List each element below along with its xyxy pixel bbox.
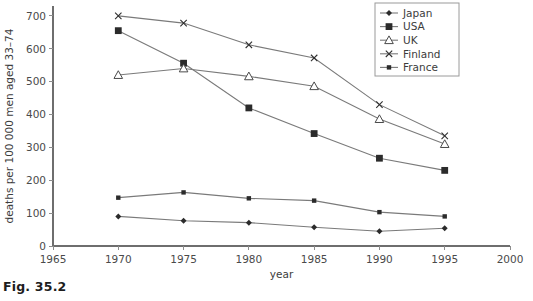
y-tick-label: 500: [26, 75, 46, 87]
y-tick-label: 600: [26, 43, 46, 55]
y-axis-ticks: 0100200300400500600700: [26, 10, 53, 252]
x-tick-label: 1965: [40, 253, 67, 265]
data-point-japan-1980: [246, 220, 252, 226]
legend-label-uk: UK: [403, 34, 419, 46]
data-point-usa-1980: [245, 105, 252, 112]
x-tick-label: 2000: [497, 253, 524, 265]
data-point-france-1985: [312, 198, 316, 202]
figure-container: 0100200300400500600700196519701975198019…: [0, 0, 533, 301]
legend-label-france: France: [403, 61, 438, 73]
series-uk: [114, 64, 449, 147]
legend-marker-france: [387, 65, 391, 69]
x-tick-label: 1980: [235, 253, 262, 265]
x-tick-label: 1975: [170, 253, 197, 265]
y-tick-label: 300: [26, 141, 46, 153]
chart-legend: JapanUSAUKFinlandFrance: [375, 3, 459, 76]
series-japan: [115, 213, 447, 234]
data-point-finland-1990: [376, 101, 382, 107]
legend-label-finland: Finland: [403, 48, 441, 60]
y-tick-label: 700: [26, 10, 46, 22]
line-chart: 0100200300400500600700196519701975198019…: [0, 0, 533, 301]
series-france: [116, 190, 447, 218]
data-point-japan-1990: [376, 228, 382, 234]
x-axis-ticks: 19651970197519801985199019952000: [40, 246, 524, 265]
legend-label-japan: Japan: [402, 7, 432, 19]
data-point-usa-1970: [115, 27, 122, 34]
data-point-usa-1990: [376, 155, 383, 162]
legend-label-usa: USA: [403, 20, 426, 32]
series-line-france: [118, 192, 444, 216]
x-tick-label: 1990: [366, 253, 393, 265]
figure-caption: Fig. 35.2: [3, 279, 67, 294]
x-tick-label: 1970: [105, 253, 132, 265]
data-point-japan-1995: [442, 225, 448, 231]
data-point-finland-1995: [442, 133, 448, 139]
data-point-france-1990: [377, 210, 381, 214]
data-point-france-1980: [247, 196, 251, 200]
legend-marker-usa: [386, 23, 393, 30]
data-point-france-1975: [181, 190, 185, 194]
x-axis-title: year: [270, 268, 294, 280]
data-point-usa-1995: [441, 167, 448, 174]
x-tick-label: 1985: [301, 253, 328, 265]
y-tick-label: 100: [26, 207, 46, 219]
x-tick-label: 1995: [431, 253, 458, 265]
data-point-france-1970: [116, 195, 120, 199]
data-point-japan-1970: [115, 213, 121, 219]
data-point-japan-1975: [181, 218, 187, 224]
data-point-france-1995: [443, 214, 447, 218]
data-point-uk-1995: [440, 140, 449, 148]
y-tick-label: 200: [26, 174, 46, 186]
y-tick-label: 0: [39, 240, 46, 252]
y-tick-label: 400: [26, 108, 46, 120]
y-axis-title: deaths per 100 000 men aged 33–74: [3, 28, 15, 223]
series-line-uk: [118, 68, 444, 144]
data-point-uk-1990: [375, 115, 384, 123]
data-point-japan-1985: [311, 224, 317, 230]
series-line-japan: [118, 216, 444, 231]
data-point-usa-1985: [311, 130, 318, 137]
